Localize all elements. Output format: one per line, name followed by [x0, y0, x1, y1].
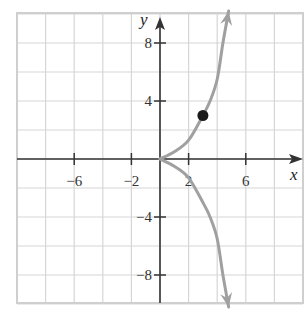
upper-branch-curve	[160, 11, 229, 159]
coordinate-plane: −6−22684−4−8 x y	[0, 0, 306, 322]
x-axis-label: x	[289, 165, 298, 184]
y-tick-label: −8	[136, 267, 152, 283]
x-tick-label: −2	[123, 173, 139, 189]
x-tick-label: −6	[66, 173, 82, 189]
y-tick-label: 4	[145, 93, 153, 109]
lower-branch-curve	[160, 159, 229, 307]
y-tick-label: −4	[136, 209, 152, 225]
y-axis-label: y	[138, 10, 148, 29]
plotted-point	[197, 110, 208, 121]
points	[197, 110, 208, 121]
y-tick-label: 8	[145, 35, 153, 51]
x-tick-label: 6	[242, 173, 250, 189]
